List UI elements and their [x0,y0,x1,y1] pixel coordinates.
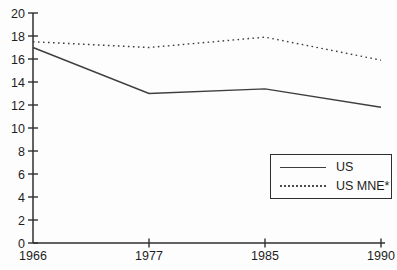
x-tick-label: 1990 [367,249,395,263]
us-legend-line-sample [280,167,326,168]
us-mne-series-line [33,37,381,60]
y-tick-label: 4 [18,191,25,205]
us-mne-legend-line-sample [280,185,326,187]
x-tick-label: 1966 [19,249,47,263]
y-tick-label: 12 [11,99,25,113]
legend-item-us: US [280,160,391,174]
line-chart-figure: 024681012141618201966197719851990 US US … [0,0,397,270]
legend: US US MNE* [270,154,392,199]
x-tick-label: 1985 [251,249,279,263]
line-chart-svg: 024681012141618201966197719851990 [0,0,397,270]
y-tick-label: 8 [18,145,25,159]
us-mne-legend-label: US MNE* [336,179,389,193]
y-tick-label: 20 [11,7,25,21]
x-tick-label: 1977 [135,249,163,263]
y-tick-label: 6 [18,168,25,182]
y-tick-label: 14 [11,76,25,90]
legend-item-us-mne: US MNE* [280,179,391,193]
y-tick-label: 16 [11,53,25,67]
y-tick-label: 18 [11,30,25,44]
y-tick-label: 2 [18,214,25,228]
y-tick-label: 10 [11,122,25,136]
us-series-line [33,48,381,108]
us-legend-label: US [336,160,353,174]
